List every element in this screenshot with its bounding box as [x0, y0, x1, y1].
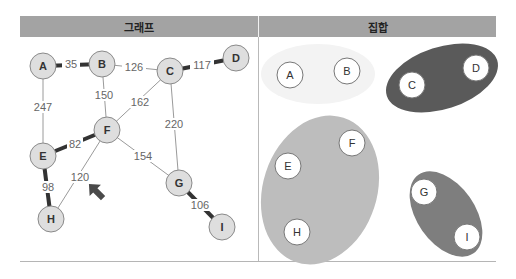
- weight-c-g: 220: [165, 118, 183, 130]
- diagram-canvas: 35 126 117 247 150 162 220 82 154 120 98…: [0, 0, 516, 279]
- set-gi-ellipse: [395, 158, 498, 270]
- svg-text:C: C: [408, 79, 416, 91]
- set-node-a: A: [277, 62, 303, 88]
- weight-e-h: 98: [42, 181, 54, 193]
- svg-text:I: I: [465, 231, 468, 243]
- svg-text:H: H: [293, 226, 301, 238]
- graph-node-i: I: [209, 214, 235, 240]
- set-node-c: C: [399, 72, 425, 98]
- graph-node-a: A: [30, 53, 56, 79]
- graph-node-e: E: [30, 143, 56, 169]
- set-node-d: D: [463, 55, 489, 81]
- set-cd-ellipse: [377, 31, 506, 126]
- set-node-f: F: [339, 130, 365, 156]
- svg-text:A: A: [39, 60, 47, 72]
- svg-text:G: G: [175, 177, 184, 189]
- set-node-g: G: [411, 179, 437, 205]
- svg-text:A: A: [286, 69, 294, 81]
- svg-text:E: E: [284, 160, 291, 172]
- weight-f-g: 154: [134, 150, 152, 162]
- svg-text:D: D: [472, 62, 480, 74]
- svg-text:B: B: [343, 65, 350, 77]
- graph-node-g: G: [166, 170, 192, 196]
- weight-b-c: 126: [125, 61, 143, 73]
- weight-g-i: 106: [191, 199, 209, 211]
- svg-text:H: H: [47, 213, 55, 225]
- graph-node-d: D: [223, 45, 249, 71]
- svg-text:C: C: [166, 65, 174, 77]
- svg-text:I: I: [220, 221, 223, 233]
- set-node-i: I: [454, 224, 480, 250]
- svg-text:G: G: [420, 186, 429, 198]
- weight-e-f: 82: [69, 138, 81, 150]
- set-node-b: B: [334, 58, 360, 84]
- svg-text:D: D: [232, 52, 240, 64]
- svg-text:F: F: [349, 137, 356, 149]
- weight-a-b: 35: [65, 58, 77, 70]
- weight-f-h: 120: [71, 171, 89, 183]
- set-node-h: H: [284, 219, 310, 245]
- svg-text:F: F: [104, 124, 111, 136]
- graph-node-b: B: [89, 51, 115, 77]
- weight-c-d: 117: [193, 59, 211, 71]
- weight-b-f: 150: [95, 89, 113, 101]
- graph-node-f: F: [94, 117, 120, 143]
- weight-c-f: 162: [131, 96, 149, 108]
- weight-a-e: 247: [34, 101, 52, 113]
- graph-node-c: C: [157, 58, 183, 84]
- graph-node-h: H: [38, 206, 64, 232]
- svg-text:E: E: [39, 150, 46, 162]
- set-efh-ellipse: [242, 100, 397, 279]
- svg-text:B: B: [98, 58, 106, 70]
- graph-nodes: A B C D E F G H I: [30, 45, 249, 240]
- set-node-e: E: [275, 153, 301, 179]
